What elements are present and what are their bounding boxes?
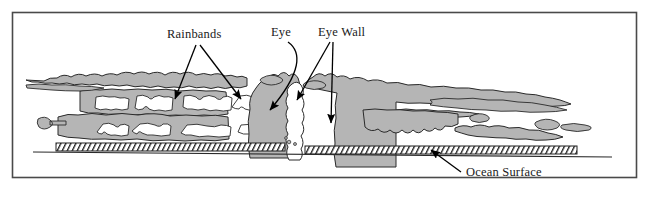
rainband-gap-5 xyxy=(97,123,129,136)
ocean-hatch-band-right xyxy=(305,146,577,154)
eye-base-speck-1 xyxy=(287,140,291,144)
hurricane-cross-section-figure: Rainbands Eye Eye Wall Ocean Surface xyxy=(0,0,649,198)
diagram-canvas: Rainbands Eye Eye Wall Ocean Surface xyxy=(0,0,649,198)
eye-clear-column xyxy=(286,82,304,160)
label-rainbands: Rainbands xyxy=(167,27,222,41)
label-eye-wall: Eye Wall xyxy=(318,25,366,39)
cloud-puff-right-1 xyxy=(470,114,490,123)
eye-base-speck-3 xyxy=(285,137,288,140)
label-eye: Eye xyxy=(271,25,291,39)
rainband-gap-3 xyxy=(183,95,232,111)
ocean-hatch-band-left xyxy=(56,143,285,151)
eye-base-speck-2 xyxy=(294,143,297,146)
cloud-puff-left-of-eye-top xyxy=(260,75,283,85)
rainband-gap-7 xyxy=(181,124,231,137)
label-ocean-surface: Ocean Surface xyxy=(466,165,542,179)
rainband-gap-2 xyxy=(135,95,173,111)
rainband-gap-1 xyxy=(95,96,129,110)
